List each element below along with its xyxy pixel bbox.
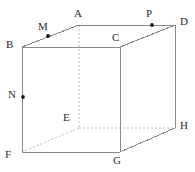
point-dot-p [150,23,154,27]
vertex-label-a: A [74,8,82,19]
point-dot-group [21,23,154,99]
solid-edge-group [22,25,175,152]
cube-edge-e-f [22,128,79,152]
point-label-m: M [38,21,48,32]
vertex-label-g: G [113,155,121,166]
point-dot-n [21,95,25,99]
cube-edge-g-h [120,128,175,152]
hidden-edge-group [22,25,175,152]
cube-figure: ABCDEFGHMNP [0,0,195,172]
point-dot-m [46,34,50,38]
vertex-label-d: D [180,16,188,27]
vertex-label-h: H [180,120,188,131]
vertex-label-f: F [5,149,11,160]
vertex-label-c: C [112,32,119,43]
cube-edge-b-a [22,25,79,47]
point-label-n: N [8,89,16,100]
cube-edge-c-d [120,25,175,47]
vertex-label-e: E [63,112,70,123]
point-label-p: P [146,8,152,19]
vertex-label-b: B [6,39,13,50]
cube-svg [0,0,195,172]
